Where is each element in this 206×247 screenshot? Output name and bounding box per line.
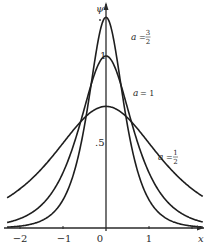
y-axis-arrow-icon bbox=[104, 2, 109, 10]
curve-label-eq: = bbox=[166, 153, 173, 162]
x-tick-label: −1 bbox=[57, 233, 72, 244]
curve-label-den: 2 bbox=[146, 38, 150, 46]
y-axis-dot-mark bbox=[99, 19, 101, 21]
curve-a-1 bbox=[7, 56, 203, 223]
y-tick-label: 1 bbox=[100, 50, 106, 61]
x-axis-label: x bbox=[198, 233, 204, 244]
curve-a-1-5 bbox=[7, 17, 203, 227]
curve-label-a-1: a = 1 bbox=[133, 88, 154, 98]
curve-label-a-3-2: a = 3 2 bbox=[131, 29, 151, 46]
curve-label-num: 1 bbox=[173, 149, 177, 157]
curve-label-den: 2 bbox=[173, 158, 177, 166]
curve-label-var: a bbox=[158, 152, 163, 162]
curve-label-var: a bbox=[131, 32, 136, 42]
x-tick-label: 0 bbox=[97, 233, 103, 244]
curve-label-a-1-2: a = 1 2 bbox=[158, 149, 178, 166]
y-tick-label: .5 bbox=[95, 137, 105, 148]
x-tick-label: −2 bbox=[13, 233, 28, 244]
curve-label-var: a bbox=[133, 88, 138, 98]
curve-label-eq: = bbox=[139, 33, 146, 42]
curves-group bbox=[7, 17, 203, 227]
y-axis-label: ψ bbox=[96, 3, 104, 14]
curve-label-text: = 1 bbox=[140, 89, 154, 98]
curve-label-num: 3 bbox=[146, 29, 150, 37]
chart-svg: ψ x −2 −1 0 1 1 .5 a = 3 2 a = 1 a = 1 2 bbox=[0, 0, 206, 247]
x-tick-label: 1 bbox=[146, 233, 152, 244]
